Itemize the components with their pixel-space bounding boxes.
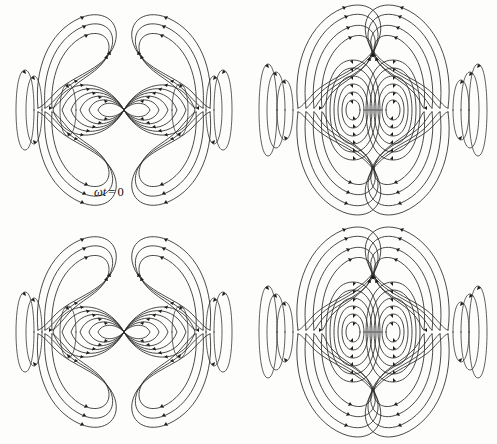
field-lines-group xyxy=(16,237,232,428)
panel-phase-1: ωt=π2 xyxy=(249,0,497,222)
panel-phase-3: ωt=3π2 xyxy=(249,222,497,444)
field-lines-group xyxy=(259,227,487,437)
panel-phase-2: ωt=π xyxy=(0,222,248,444)
phase-equals-0: = xyxy=(106,185,117,199)
field-line-plot-0 xyxy=(0,0,248,222)
field-lines-group xyxy=(16,15,232,206)
panel-phase-0: ωt=0 xyxy=(0,0,248,222)
field-line-plot-2 xyxy=(0,222,248,444)
phase-value-0: 0 xyxy=(117,185,123,199)
field-lines-group xyxy=(259,5,487,215)
phase-label-0: ωt=0 xyxy=(94,186,124,199)
phase-symbol-0: ωt xyxy=(94,185,106,199)
dipole-radiation-figure: ωt=0 xyxy=(0,0,497,444)
field-line-plot-1 xyxy=(249,0,497,222)
field-line-plot-3 xyxy=(249,222,497,444)
